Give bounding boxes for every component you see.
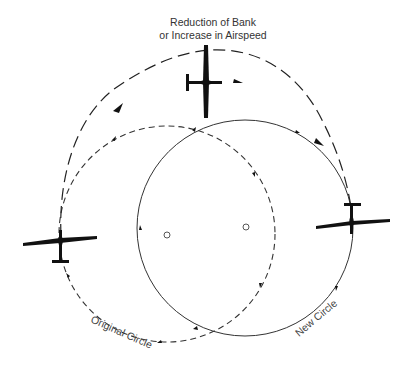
new-center-marker	[243, 224, 249, 230]
original-circle-label: Original Circle	[89, 313, 154, 351]
original-center-marker	[164, 232, 170, 238]
top-glider-icon	[186, 45, 222, 118]
right-glider-icon	[316, 203, 390, 234]
transition-arrow-2	[233, 79, 243, 83]
transition-arrow-1	[113, 103, 123, 113]
new-circle-label: New Circle	[293, 297, 340, 339]
diagram-title: Reduction of Bank or Increase in Airspee…	[138, 16, 288, 42]
diagram-canvas: Original Circle New Circle	[0, 0, 407, 373]
turn-diagram: Reduction of Bank or Increase in Airspee…	[0, 0, 407, 373]
left-glider-icon	[23, 230, 97, 263]
title-line-1: Reduction of Bank	[138, 16, 288, 29]
title-line-2: or Increase in Airspeed	[138, 29, 288, 42]
transition-arrow-3	[314, 138, 324, 146]
